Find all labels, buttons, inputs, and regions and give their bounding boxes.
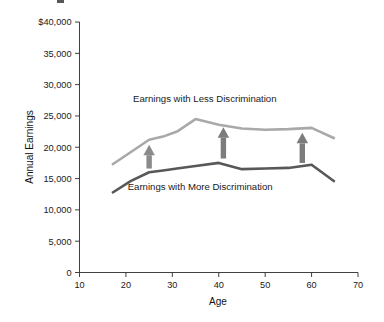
y-tick-label: 25,000 [43,111,71,121]
x-tick-label: 10 [74,280,84,290]
x-axis-title: Age [209,296,227,307]
y-tick-label: 35,000 [43,49,71,59]
y-axis-tick-labels: 05,00010,00015,00020,00025,00030,00035,0… [38,17,71,278]
series-inline-label: Earnings with More Discrimination [128,181,273,192]
x-tick-label: 50 [260,280,270,290]
series-inline-label: Earnings with Less Discrimination [133,93,276,104]
text-annotations-layer: Earnings with Less DiscriminationEarning… [128,93,277,192]
arrow-head [218,127,230,138]
arrow-shaft [300,143,305,163]
up-arrow-icon [143,145,155,169]
y-tick-label: 10,000 [43,205,71,215]
x-tick-label: 60 [306,280,316,290]
y-tick-label: 30,000 [43,80,71,90]
arrow-shaft [221,138,226,159]
y-tick-label: 0 [66,268,71,278]
y-axis-title: Annual Earnings [24,110,35,183]
x-tick-label: 30 [167,280,177,290]
y-axis-ticks [75,22,80,273]
x-tick-label: 40 [214,280,224,290]
chart-figure: 05,00010,00015,00020,00025,00030,00035,0… [0,0,384,322]
x-axis-ticks [80,273,359,278]
x-axis-tick-labels: 10203040506070 [74,280,363,290]
y-tick-label: 15,000 [43,174,71,184]
annual-earnings-line-chart: 05,00010,00015,00020,00025,00030,00035,0… [0,0,384,322]
arrow-head [297,133,309,144]
y-tick-label: $40,000 [38,17,71,27]
y-tick-label: 5,000 [49,237,72,247]
y-tick-label: 20,000 [43,143,71,153]
arrow-shaft [146,155,151,168]
axis-frame [80,22,359,273]
up-arrow-icon [297,133,309,163]
arrow-head [143,145,155,156]
x-tick-label: 20 [121,280,131,290]
up-arrow-icon [218,127,230,158]
x-tick-label: 70 [353,280,363,290]
